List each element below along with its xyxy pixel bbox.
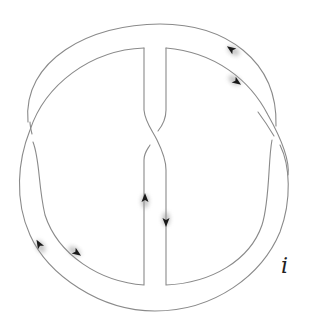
- knot-diagram: [0, 0, 309, 324]
- right-crossing-under: [258, 112, 274, 136]
- inner-bottom-right-arc: [144, 48, 272, 285]
- arrow-bottom-outer-left-icon: [33, 238, 47, 255]
- center-twist-upper-right: [158, 48, 166, 131]
- inner-bottom-left-arc: [33, 142, 150, 285]
- arrow-top-outer-icon: [225, 43, 242, 58]
- inner-top-left-arc: [19, 48, 288, 311]
- arrow-center-left-icon: [141, 193, 149, 208]
- outer-top-arc: [28, 24, 276, 126]
- arrow-bottom-inner-left-icon: [67, 244, 84, 259]
- arrow-center-right-icon: [162, 212, 170, 227]
- figure-label: i: [281, 253, 288, 278]
